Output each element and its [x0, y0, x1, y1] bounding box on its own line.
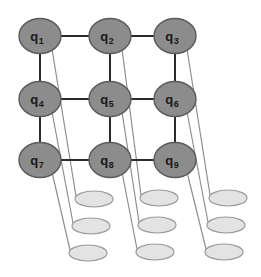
qubit-label-subscript: 6 [174, 99, 179, 109]
qubit-lattice-figure: q1q2q3q4q5q6q7q8q9 [0, 0, 261, 277]
readout-ellipse[interactable] [136, 244, 174, 260]
readout-connector [187, 172, 206, 249]
readout-ellipse[interactable] [209, 190, 247, 206]
readout-connector [52, 172, 70, 250]
qubit-label-subscript: 1 [39, 36, 44, 46]
readout-ellipse[interactable] [207, 217, 245, 233]
qubit-node-q1[interactable]: q1 [19, 19, 61, 54]
qubit-label-subscript: 2 [109, 36, 114, 46]
readout-ellipse[interactable] [205, 244, 243, 260]
readout-ellipse[interactable] [75, 191, 113, 207]
qubit-node-q7[interactable]: q7 [19, 143, 61, 178]
qubit-node-q5[interactable]: q5 [89, 82, 131, 117]
qubit-node-q3[interactable]: q3 [154, 19, 196, 54]
qubit-label-subscript: 7 [39, 160, 44, 170]
readout-ellipse[interactable] [140, 190, 178, 206]
qubit-label-subscript: 5 [109, 99, 114, 109]
readout-connector [122, 172, 137, 249]
qubit-node-q6[interactable]: q6 [154, 82, 196, 117]
diagram-canvas: q1q2q3q4q5q6q7q8q9 [0, 0, 261, 277]
readout-layer [69, 190, 247, 261]
readout-ellipse[interactable] [138, 217, 176, 233]
qubit-label-subscript: 4 [39, 99, 44, 109]
qubit-node-q4[interactable]: q4 [19, 82, 61, 117]
qubit-node-q8[interactable]: q8 [89, 143, 131, 178]
qubit-label-subscript: 3 [174, 36, 179, 46]
readout-ellipse[interactable] [69, 245, 107, 261]
qubit-label-subscript: 9 [174, 160, 179, 170]
qubit-label-subscript: 8 [109, 160, 114, 170]
qubit-node-q2[interactable]: q2 [89, 19, 131, 54]
qubit-node-q9[interactable]: q9 [154, 143, 196, 178]
readout-ellipse[interactable] [72, 218, 110, 234]
qubit-layer: q1q2q3q4q5q6q7q8q9 [19, 19, 196, 178]
